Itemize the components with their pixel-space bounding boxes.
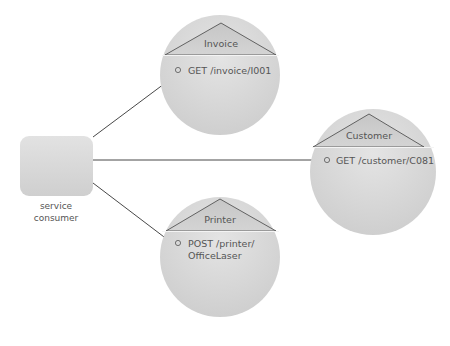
arrow-to-printer <box>93 183 172 243</box>
service-consumer-label-line2: consumer <box>10 212 102 224</box>
operation-printer-post-line2[interactable]: OfficeLaser <box>188 250 242 261</box>
service-customer[interactable]: Customer GET /customer/C081 <box>310 109 436 235</box>
service-name-invoice: Invoice <box>204 38 238 49</box>
service-name-printer: Printer <box>204 214 236 225</box>
operation-printer-post-line1[interactable]: POST /printer/ <box>188 238 255 249</box>
service-consumer-node[interactable] <box>20 136 93 196</box>
service-printer[interactable]: Printer POST /printer/ OfficeLaser <box>160 197 280 317</box>
arrow-to-invoice <box>93 78 172 137</box>
service-consumer-label-line1: service <box>10 200 102 212</box>
service-name-customer: Customer <box>346 130 392 141</box>
service-consumer-label: service consumer <box>10 200 102 224</box>
operation-customer-get[interactable]: GET /customer/C081 <box>336 155 434 166</box>
operation-invoice-get[interactable]: GET /invoice/I001 <box>188 65 271 76</box>
service-invoice[interactable]: Invoice GET /invoice/I001 <box>160 15 280 135</box>
diagram-canvas: Invoice GET /invoice/I001 Customer GET /… <box>0 0 450 346</box>
